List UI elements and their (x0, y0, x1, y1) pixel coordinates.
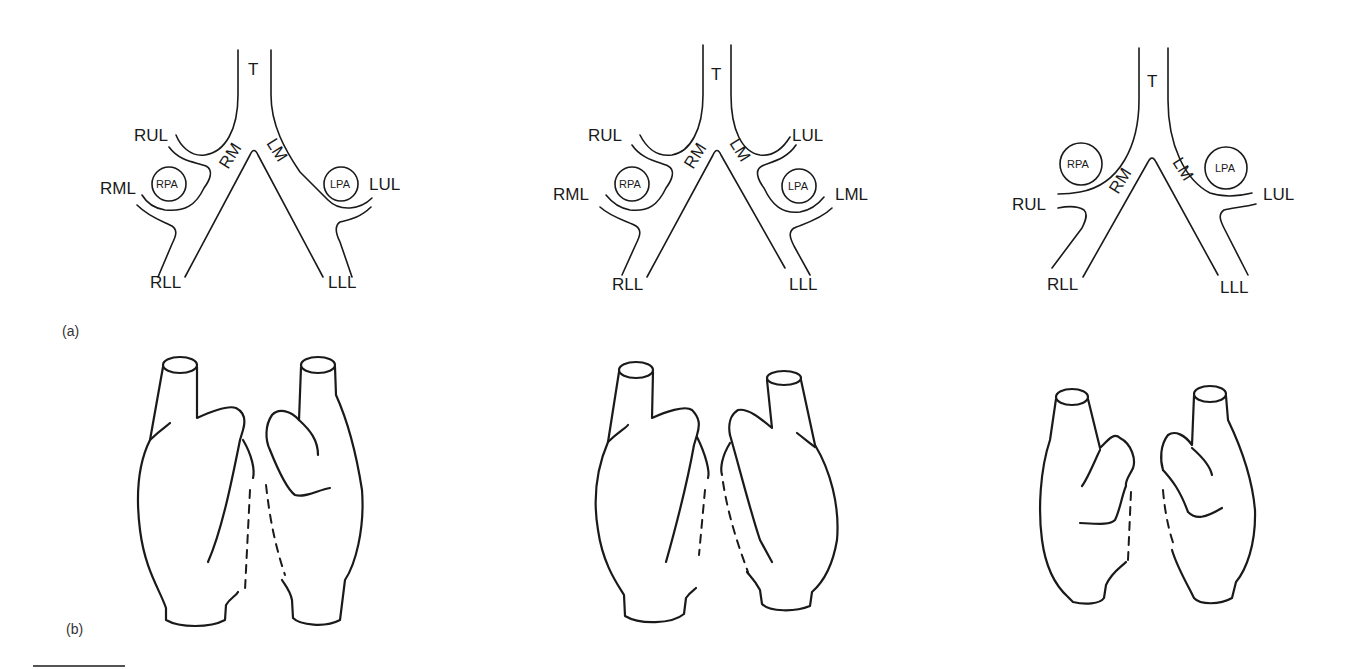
label-lll: LLL (789, 275, 817, 294)
lung-sketch-1 (138, 357, 363, 626)
label-lml: LML (835, 185, 868, 204)
label-rpa: RPA (1067, 158, 1089, 170)
bronchial-diagram-1 (137, 50, 372, 277)
label-rpa: RPA (619, 178, 641, 190)
label-rml: RML (553, 185, 589, 204)
label-rul: RUL (134, 126, 168, 145)
label-lul: LUL (1263, 185, 1294, 204)
panel-label-b: (b) (66, 621, 83, 637)
label-trachea: T (248, 60, 258, 79)
figure-canvas: T RUL RML RLL LUL LLL RPA LPA RM LM T RU… (0, 0, 1352, 669)
label-rll: RLL (150, 273, 181, 292)
label-lll: LLL (1220, 278, 1248, 297)
label-lll: LLL (328, 273, 356, 292)
label-trachea: T (1147, 72, 1157, 91)
lung-sketch-3 (1040, 386, 1255, 604)
label-rul: RUL (588, 126, 622, 145)
lung-sketch-2 (596, 362, 838, 622)
label-rll: RLL (612, 275, 643, 294)
label-lpa: LPA (788, 180, 809, 192)
label-rpa: RPA (156, 178, 178, 190)
label-rll: RLL (1047, 275, 1078, 294)
label-trachea: T (711, 65, 721, 84)
label-lul: LUL (369, 175, 400, 194)
label-lpa: LPA (1215, 162, 1236, 174)
label-lpa: LPA (330, 178, 351, 190)
label-rml: RML (100, 179, 136, 198)
label-lm: LM (263, 135, 292, 165)
label-rm: RM (215, 140, 245, 173)
panel-label-a: (a) (62, 323, 79, 339)
label-lm: LM (726, 135, 755, 165)
label-lul: LUL (792, 126, 823, 145)
label-rul: RUL (1012, 195, 1046, 214)
